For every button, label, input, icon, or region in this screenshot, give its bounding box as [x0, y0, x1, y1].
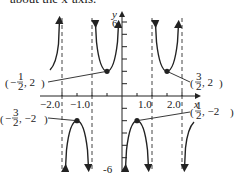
- svg-text:): ): [230, 106, 234, 119]
- svg-text:, 2: , 2: [24, 76, 35, 88]
- svg-text:): ): [41, 77, 45, 90]
- branch-neg1-0: [96, 24, 119, 71]
- svg-text:(: (: [0, 113, 4, 126]
- svg-text:−: −: [10, 76, 16, 88]
- branch-1-2: [156, 24, 179, 71]
- branch-right-of-2: [185, 122, 195, 168]
- svg-text:2: 2: [13, 116, 19, 128]
- branch-0-1: [126, 121, 149, 168]
- svg-text:, −2: , −2: [19, 112, 36, 124]
- annotation-half-neg2: ( 1 2 , −2 ): [190, 99, 234, 121]
- x-tick-neg2: −2.0: [40, 98, 60, 110]
- branch-neg2-neg1: [66, 121, 89, 168]
- svg-text:(: (: [5, 77, 9, 90]
- x-tick-1: 1.0: [138, 98, 152, 110]
- y-tick-neg6: -6: [103, 163, 113, 175]
- annotation-neg-half-2: ( − 1 2 , 2 ): [5, 70, 45, 92]
- svg-text:, 2: , 2: [202, 76, 213, 88]
- svg-text:2: 2: [18, 80, 24, 92]
- x-tick-neg1: −1.0: [70, 98, 90, 110]
- annotation-3half-2: ( 3 2 , 2 ): [190, 70, 223, 92]
- svg-text:2: 2: [196, 109, 202, 121]
- csc-graph: y 6 -6 x −2.0 −1.0 1.0 2.0 ( − 1 2 , 2 )…: [0, 0, 244, 176]
- svg-text:(: (: [190, 77, 194, 90]
- svg-text:): ): [219, 77, 223, 90]
- branch-left-of-neg2: [50, 20, 60, 70]
- y-tick-6: 6: [112, 17, 118, 29]
- svg-text:): ): [44, 113, 48, 126]
- svg-text:2: 2: [196, 80, 202, 92]
- svg-text:−: −: [5, 112, 11, 124]
- x-tick-2: 2.0: [167, 98, 181, 110]
- svg-text:, −2: , −2: [202, 105, 219, 117]
- svg-text:(: (: [190, 106, 194, 119]
